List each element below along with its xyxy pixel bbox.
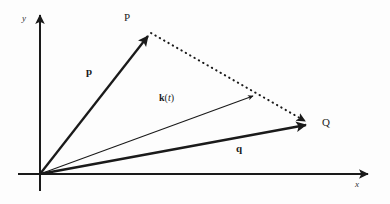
point-label-q: Q [322,117,330,128]
x-axis-label: x [355,180,359,189]
vector-diagram-figure: y x P Q p q k(t) [0,0,390,204]
y-axis-label: y [22,14,26,23]
point-label-p: P [124,12,130,23]
vector-q-line [40,125,306,174]
vector-label-k-of-t: k(t) [159,93,174,103]
k-close-paren: ) [171,92,174,103]
vector-p-line [40,36,148,174]
diagram-canvas [0,0,390,204]
dotted-segment-p-to-q [151,33,305,121]
vector-label-p: p [86,66,92,77]
vector-label-q: q [236,143,242,154]
